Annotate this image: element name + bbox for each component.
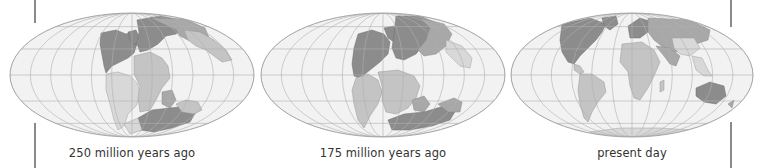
continental-drift-figure: 250 million years ago 175 million years … xyxy=(0,0,765,168)
map-present-day xyxy=(511,13,753,138)
caption-175-million-years-ago: 175 million years ago xyxy=(283,146,483,160)
map-250-million-years xyxy=(10,13,254,137)
landmass-madagascar xyxy=(660,80,664,92)
caption-present-day: present day xyxy=(532,146,732,160)
map-175-million-years xyxy=(261,13,505,137)
maps-svg xyxy=(0,0,765,168)
caption-250-million-years-ago: 250 million years ago xyxy=(32,146,232,160)
